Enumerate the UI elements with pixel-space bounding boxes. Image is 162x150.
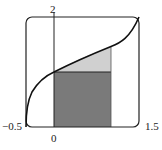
plot [0,0,162,150]
y-max-label: 2 [50,4,56,15]
x-min-label: −0.5 [2,121,22,132]
x-zero-label: 0 [51,133,57,144]
dark-shaded-rectangle [54,72,111,127]
x-max-label: 1.5 [145,121,159,132]
